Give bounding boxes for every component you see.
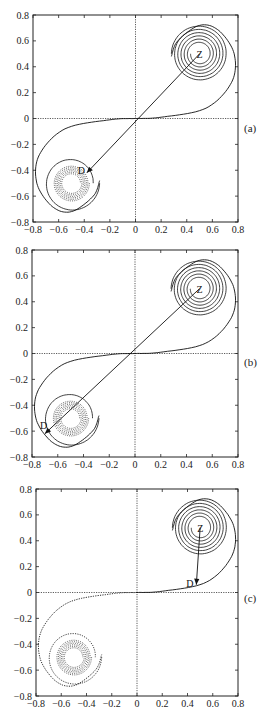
y-tick-label: 0.6 (17, 35, 30, 46)
x-tick-label: −0.4 (74, 459, 92, 470)
y-tick-label: −0.2 (11, 139, 29, 150)
arrowhead-icon (194, 579, 199, 585)
y-tick-label: −0.8 (11, 217, 29, 228)
panel-label: (c) (244, 592, 257, 605)
x-tick-label: 0.2 (156, 698, 169, 709)
y-tick-label: 0.2 (20, 561, 33, 572)
x-tick-label: −0.2 (100, 459, 118, 470)
x-tick-label: 0.6 (207, 698, 220, 709)
lower-spiral-dotted (57, 640, 92, 675)
y-tick-label: 0.8 (16, 245, 29, 256)
y-tick-label: 0.6 (16, 270, 29, 281)
x-tick-label: −0.4 (75, 224, 93, 235)
y-tick-label: 0.8 (20, 484, 33, 495)
y-tick-label: 0.2 (17, 87, 30, 98)
panel-b: −0.8−0.6−0.4−0.200.20.40.60.80.80.60.40.… (10, 245, 257, 471)
y-tick-label: 0 (27, 587, 32, 598)
arrow-z-to-d (87, 54, 200, 173)
y-tick-label: 0.2 (16, 322, 29, 333)
point-label-d: D (186, 578, 193, 589)
y-tick-label: −0.2 (10, 374, 28, 385)
y-tick-label: 0.8 (17, 10, 30, 21)
y-tick-label: −0.6 (14, 665, 32, 676)
panel-label: (b) (244, 356, 257, 369)
x-tick-label: 0.4 (181, 698, 194, 709)
x-tick-label: −0.4 (77, 698, 95, 709)
arrow-z-to-d (196, 528, 200, 585)
x-tick-label: 0.4 (180, 459, 193, 470)
y-tick-label: 0.4 (20, 535, 33, 546)
x-tick-label: 0.8 (232, 459, 245, 470)
x-tick-label: −0.6 (52, 698, 70, 709)
panel-c: −0.8−0.6−0.4−0.200.20.40.60.80.80.60.40.… (14, 484, 257, 710)
y-tick-label: 0.4 (17, 61, 30, 72)
x-tick-label: 0 (133, 224, 138, 235)
x-tick-label: 0.2 (155, 224, 168, 235)
lower-spiral-dotted (53, 401, 88, 436)
x-tick-label: 0.8 (232, 698, 245, 709)
lower-outer-loop (46, 395, 100, 446)
y-tick-label: 0 (23, 348, 28, 359)
point-label-z: Z (197, 49, 203, 60)
y-tick-label: −0.4 (10, 400, 28, 411)
y-tick-label: 0 (24, 113, 29, 124)
x-tick-label: 0.2 (155, 459, 168, 470)
y-tick-label: −0.2 (14, 613, 32, 624)
y-tick-label: −0.4 (11, 165, 29, 176)
panel-label: (a) (244, 122, 257, 135)
y-tick-label: 0.4 (16, 296, 29, 307)
y-tick-label: −0.4 (14, 639, 32, 650)
point-label-z: Z (197, 523, 203, 534)
x-tick-label: −0.6 (49, 459, 67, 470)
x-tick-label: 0.6 (206, 224, 219, 235)
x-tick-label: 0 (135, 698, 140, 709)
arrow-z-to-d (45, 289, 200, 434)
x-tick-label: 0.4 (181, 224, 194, 235)
panel-a: −0.8−0.6−0.4−0.200.20.40.60.80.80.60.40.… (11, 10, 257, 236)
y-tick-label: −0.8 (14, 691, 32, 702)
y-tick-label: 0.6 (20, 509, 33, 520)
x-tick-label: 0 (133, 459, 138, 470)
figure-three-panels: −0.8−0.6−0.4−0.200.20.40.60.80.80.60.40.… (0, 0, 266, 721)
y-tick-label: −0.6 (11, 191, 29, 202)
point-label-d: D (40, 420, 47, 431)
y-tick-label: −0.8 (10, 452, 28, 463)
x-tick-label: 0.6 (206, 459, 219, 470)
y-tick-label: −0.6 (10, 426, 28, 437)
x-tick-label: −0.2 (101, 224, 119, 235)
x-tick-label: 0.8 (232, 224, 245, 235)
point-label-z: Z (196, 284, 202, 295)
x-tick-label: −0.2 (103, 698, 121, 709)
point-label-d: D (78, 165, 85, 176)
x-tick-label: −0.6 (50, 224, 68, 235)
